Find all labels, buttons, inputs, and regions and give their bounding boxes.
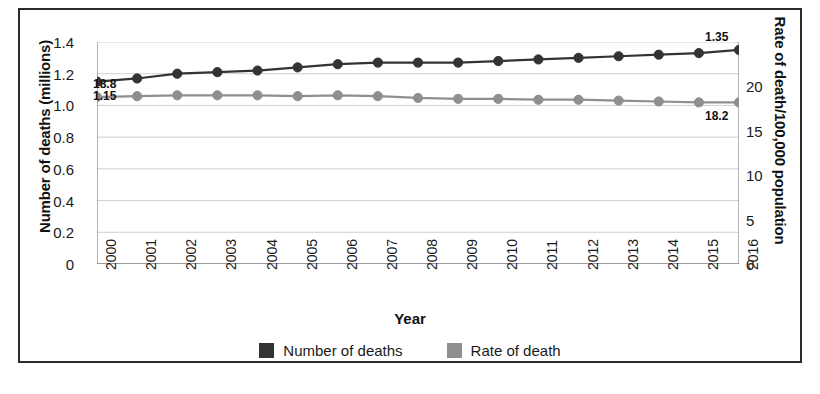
point-label: 1.15 bbox=[93, 89, 116, 103]
y-tick-left: 0.4 bbox=[22, 192, 74, 209]
y-tick-left: 0.8 bbox=[22, 129, 74, 146]
x-tick-2009: 2009 bbox=[464, 239, 480, 270]
y-tick-left: 1.4 bbox=[22, 34, 74, 51]
x-tick-2001: 2001 bbox=[143, 239, 159, 270]
y-tick-left: 0 bbox=[22, 256, 74, 273]
y-tick-right: 15 bbox=[746, 122, 788, 139]
y-tick-left: 0.2 bbox=[22, 224, 74, 241]
legend-swatch bbox=[447, 343, 462, 358]
chart-svg bbox=[97, 42, 739, 264]
x-tick-2006: 2006 bbox=[344, 239, 360, 270]
y-tick-right: 10 bbox=[746, 167, 788, 184]
x-tick-2002: 2002 bbox=[183, 239, 199, 270]
legend-item: Rate of death bbox=[447, 342, 561, 359]
x-tick-2007: 2007 bbox=[384, 239, 400, 270]
x-tick-2010: 2010 bbox=[504, 239, 520, 270]
y-tick-right: 20 bbox=[746, 78, 788, 95]
x-tick-2004: 2004 bbox=[264, 239, 280, 270]
y-tick-right: 5 bbox=[746, 211, 788, 228]
chart-legend: Number of deathsRate of death bbox=[20, 342, 800, 359]
point-label: 1.35 bbox=[705, 30, 728, 44]
legend-swatch bbox=[259, 343, 274, 358]
y-tick-left: 1.2 bbox=[22, 65, 74, 82]
x-tick-2003: 2003 bbox=[223, 239, 239, 270]
y-tick-left: 0.6 bbox=[22, 160, 74, 177]
y-tick-left: 1.0 bbox=[22, 97, 74, 114]
legend-label: Number of deaths bbox=[283, 342, 402, 359]
legend-label: Rate of death bbox=[471, 342, 561, 359]
x-tick-2012: 2012 bbox=[585, 239, 601, 270]
x-tick-2014: 2014 bbox=[665, 239, 681, 270]
y-axis-right-title: Rate of death/100,000 population bbox=[772, 0, 789, 281]
x-tick-2011: 2011 bbox=[544, 240, 560, 270]
point-label: 18.2 bbox=[705, 109, 728, 123]
x-tick-2013: 2013 bbox=[625, 239, 641, 270]
x-axis-title: Year bbox=[20, 310, 800, 327]
plot-area bbox=[97, 42, 739, 264]
x-tick-2005: 2005 bbox=[304, 239, 320, 270]
x-tick-2008: 2008 bbox=[424, 239, 440, 270]
x-tick-2000: 2000 bbox=[103, 239, 119, 270]
chart-figure: Number of deaths (millions) Rate of deat… bbox=[18, 8, 802, 363]
legend-item: Number of deaths bbox=[259, 342, 402, 359]
x-tick-2015: 2015 bbox=[705, 239, 721, 270]
x-tick-2016: 2016 bbox=[745, 239, 761, 270]
